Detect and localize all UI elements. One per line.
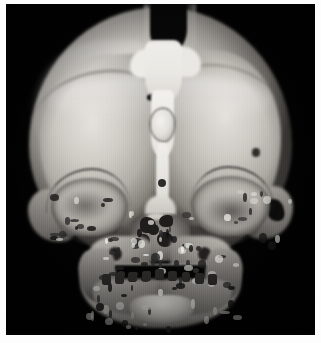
bone-speckle (228, 300, 234, 308)
bone-speckle (196, 246, 201, 251)
bone-speckle (142, 305, 152, 310)
wormian-bone (151, 109, 174, 141)
bone-speckle (251, 192, 257, 196)
bone-speckle (215, 255, 223, 263)
image-frame (0, 0, 321, 343)
bone-speckle (121, 294, 126, 297)
bone-speckle (233, 315, 242, 320)
tooth (115, 273, 124, 284)
bone-speckle (105, 318, 112, 325)
bone-speckle (70, 219, 79, 222)
bone-speckle (191, 299, 195, 308)
bone-speckle (138, 240, 145, 248)
frontal-foramen-right (252, 148, 261, 157)
bone-speckle (56, 238, 63, 241)
tooth (142, 271, 151, 282)
bone-speckle (75, 226, 78, 230)
bone-speckle (141, 262, 149, 266)
bone-speckle (184, 265, 193, 272)
bone-speckle (268, 241, 277, 249)
bone-speckle (151, 253, 159, 262)
bone-speckle (159, 230, 163, 237)
bone-speckle (87, 226, 96, 231)
bone-speckle (250, 198, 258, 204)
bone-speckle (103, 198, 112, 203)
bone-speckle (228, 286, 234, 291)
bone-speckle (238, 217, 247, 220)
bone-speckle (91, 311, 94, 320)
turbinate (159, 215, 173, 227)
tooth (102, 274, 111, 285)
bone-speckle (171, 236, 177, 243)
ct-render-viewport (6, 4, 315, 335)
bone-speckle (59, 231, 66, 238)
bone-speckle (110, 237, 119, 241)
bone-speckle (220, 311, 229, 314)
turbinate (148, 224, 159, 235)
bone-speckle (198, 260, 205, 268)
bone-speckle (243, 193, 247, 201)
bone-speckle (233, 263, 240, 267)
bone-speckle (148, 220, 155, 224)
bone-speckle (116, 302, 124, 310)
tooth (168, 271, 177, 282)
bone-speckle (143, 323, 147, 327)
bone-speckle (126, 325, 131, 328)
bone-speckle (137, 229, 142, 238)
tooth (128, 272, 137, 283)
bone-speckle (131, 211, 134, 216)
tooth (182, 272, 191, 283)
bone-speckle (234, 221, 239, 224)
bone-speckle (275, 235, 280, 243)
bone-speckle (189, 217, 194, 220)
bone-speckle (103, 305, 108, 313)
tooth (155, 269, 164, 280)
bone-speckle (176, 283, 185, 288)
bone-speckle (181, 246, 184, 253)
bone-speckle (166, 326, 171, 333)
tooth (208, 274, 217, 285)
bone-speckle (259, 233, 267, 242)
bone-speckle (77, 224, 84, 229)
bone-speckle (224, 214, 230, 221)
tooth (195, 273, 204, 284)
bone-speckle (131, 238, 137, 245)
bone-speckle (50, 194, 59, 200)
bone-speckle (288, 199, 293, 204)
bone-speckle (103, 257, 110, 259)
bone-speckle (204, 316, 209, 324)
bone-speckle (135, 327, 138, 330)
bone-speckle (189, 245, 193, 252)
skull-3d-reconstruction (6, 4, 315, 335)
bone-speckle (158, 289, 162, 296)
